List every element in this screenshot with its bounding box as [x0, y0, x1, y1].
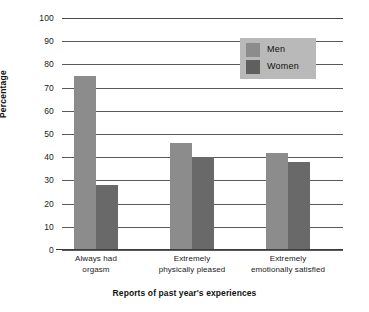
y-tick-label: 80 — [20, 60, 54, 69]
x-axis-title: Reports of past year's experiences — [0, 288, 369, 298]
y-axis-title: Percentage — [0, 70, 8, 118]
y-tick-label: 70 — [20, 84, 54, 93]
x-axis-line — [56, 249, 343, 250]
y-tick-label: 20 — [20, 200, 54, 209]
bar-men-0 — [74, 76, 96, 250]
y-tick-label: 50 — [20, 130, 54, 139]
bar-chart: Percentage 1009080706050403020100 Always… — [0, 0, 369, 312]
bar-women-1 — [192, 157, 214, 250]
category-label-line: emotionally satisfied — [228, 265, 348, 276]
bar-women-0 — [96, 185, 118, 250]
legend-item-women: Women — [246, 59, 299, 74]
legend-swatch-women-icon — [246, 60, 260, 74]
bar-men-1 — [170, 143, 192, 250]
legend-swatch-men-icon — [246, 43, 260, 57]
x-axis-category-labels: Always hadorgasmExtremelyphysically plea… — [0, 254, 369, 288]
legend: Men Women — [240, 38, 316, 79]
legend-item-men: Men — [246, 42, 285, 57]
legend-label-men: Men — [267, 45, 285, 54]
y-tick-label: 90 — [20, 37, 54, 46]
bar-men-2 — [266, 153, 288, 250]
bar-women-2 — [288, 162, 310, 250]
category-label-line: Extremely — [228, 254, 348, 265]
y-tick-label: 60 — [20, 107, 54, 116]
gridline — [62, 250, 343, 251]
y-tick-label: 100 — [20, 14, 54, 23]
legend-label-women: Women — [267, 62, 299, 71]
y-tick-label: 10 — [20, 223, 54, 232]
category-label: Extremelyemotionally satisfied — [228, 254, 348, 275]
y-tick-label: 30 — [20, 176, 54, 185]
y-tick-label: 40 — [20, 153, 54, 162]
